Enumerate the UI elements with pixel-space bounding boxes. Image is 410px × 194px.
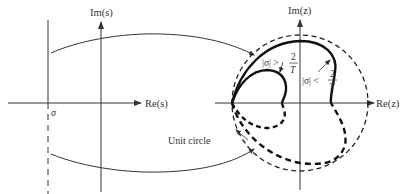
re-z-label: Re(z) [376,98,400,110]
small-sigma-pointer [318,60,330,72]
large-sigma-frac-num: 2 [291,52,296,62]
small-sigma-frac-num: 2 [330,69,335,79]
s-to-z-mapping-diagram: Im(s) Re(s) σ Im(z) Re(z) Unit circle |σ… [0,0,410,194]
small-sigma-frac-den: T [329,82,335,92]
upper-mapping-arc [51,34,254,55]
z-plane: Im(z) Re(z) Unit circle |σ| > 2 T |σ| < … [168,5,400,190]
lower-mapping-arc [51,149,254,172]
large-sigma-label: |σ| > [262,58,279,68]
contour-large-sigma-solid [232,70,286,103]
large-sigma-frac-den: T [290,65,296,75]
sigma-label: σ [51,107,57,118]
re-s-label: Re(s) [145,98,168,110]
large-sigma-pointer [280,62,283,72]
contour-small-sigma-solid [232,41,335,103]
im-z-label: Im(z) [288,5,312,17]
unit-circle-label: Unit circle [168,135,211,146]
contour-small-sigma-dashed [232,103,346,164]
im-s-label: Im(s) [90,7,113,19]
small-sigma-label: |σ| < [302,76,319,86]
contour-large-sigma-dashed [232,103,285,128]
s-plane: Im(s) Re(s) σ [8,7,168,194]
